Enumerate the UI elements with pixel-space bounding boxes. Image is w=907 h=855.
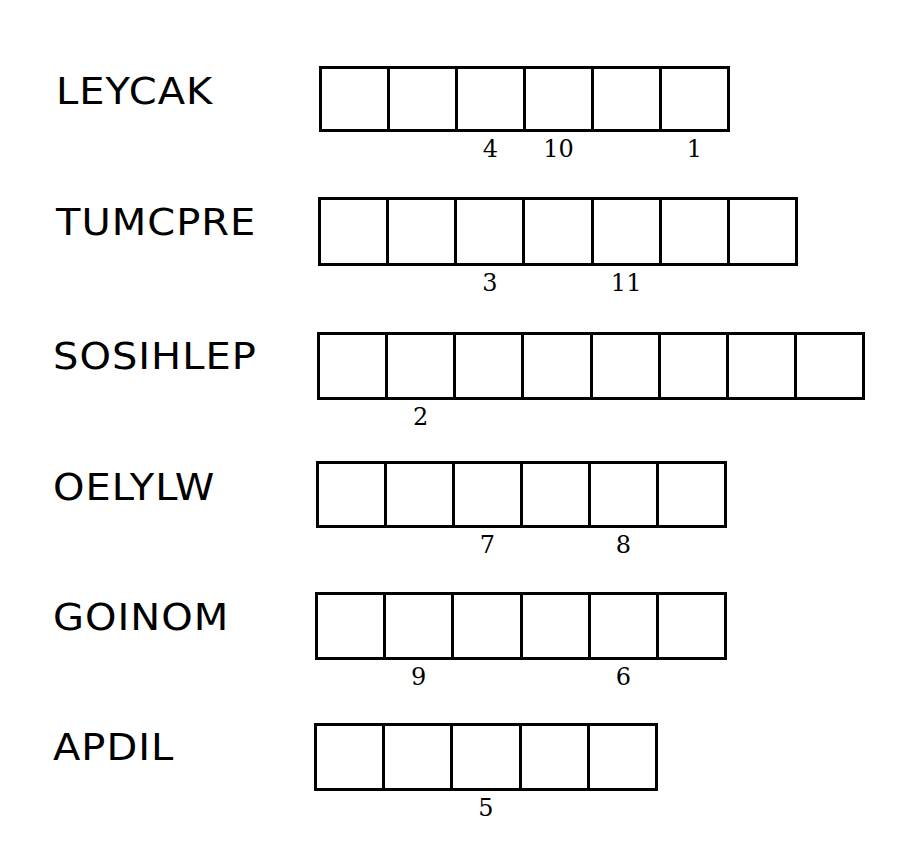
letter-cell[interactable]: 9 bbox=[386, 595, 454, 657]
letter-cell[interactable] bbox=[456, 335, 524, 397]
letter-cell[interactable]: 10 bbox=[526, 69, 594, 129]
letter-cell[interactable] bbox=[590, 726, 655, 788]
scrambled-word: OELYLW bbox=[53, 468, 215, 506]
letter-cell[interactable] bbox=[387, 464, 455, 525]
letter-cell[interactable] bbox=[320, 335, 388, 397]
letter-cell[interactable] bbox=[319, 464, 387, 525]
letter-cell[interactable] bbox=[659, 464, 724, 525]
letter-cell[interactable]: 1 bbox=[662, 69, 727, 129]
answer-boxes: 78 bbox=[316, 461, 727, 528]
letter-cell[interactable] bbox=[317, 726, 385, 788]
letter-cell[interactable]: 11 bbox=[594, 200, 662, 263]
letter-cell[interactable] bbox=[594, 69, 662, 129]
letter-cell[interactable]: 3 bbox=[457, 200, 525, 263]
cell-number: 8 bbox=[591, 533, 656, 557]
letter-cell[interactable] bbox=[730, 200, 795, 263]
cell-number: 9 bbox=[386, 665, 451, 689]
cell-number: 6 bbox=[591, 665, 656, 689]
cell-number: 5 bbox=[453, 796, 518, 820]
answer-boxes: 5 bbox=[314, 723, 658, 791]
letter-cell[interactable] bbox=[524, 335, 592, 397]
letter-cell[interactable] bbox=[322, 69, 390, 129]
letter-cell[interactable] bbox=[729, 335, 797, 397]
letter-cell[interactable] bbox=[389, 200, 457, 263]
letter-cell[interactable] bbox=[321, 200, 389, 263]
letter-cell[interactable]: 6 bbox=[591, 595, 659, 657]
letter-cell[interactable] bbox=[661, 335, 729, 397]
answer-boxes: 96 bbox=[315, 592, 727, 660]
cell-number: 1 bbox=[662, 137, 727, 161]
cell-number: 4 bbox=[458, 137, 523, 161]
answer-boxes: 4101 bbox=[319, 66, 730, 132]
letter-cell[interactable] bbox=[593, 335, 661, 397]
letter-cell[interactable] bbox=[318, 595, 386, 657]
answer-boxes: 311 bbox=[318, 197, 798, 266]
scrambled-word: TUMCPRE bbox=[56, 203, 256, 241]
cell-number: 7 bbox=[455, 533, 520, 557]
cell-number: 2 bbox=[388, 405, 453, 429]
cell-number: 10 bbox=[526, 137, 591, 161]
letter-cell[interactable] bbox=[385, 726, 453, 788]
letter-cell[interactable] bbox=[523, 464, 591, 525]
letter-cell[interactable] bbox=[390, 69, 458, 129]
letter-cell[interactable] bbox=[659, 595, 724, 657]
letter-cell[interactable]: 4 bbox=[458, 69, 526, 129]
scrambled-word: APDIL bbox=[53, 728, 174, 766]
answer-boxes: 2 bbox=[317, 332, 865, 400]
letter-cell[interactable]: 2 bbox=[388, 335, 456, 397]
cell-number: 11 bbox=[594, 271, 659, 295]
scrambled-word: SOSIHLEP bbox=[53, 337, 257, 375]
scrambled-word: LEYCAK bbox=[56, 72, 213, 110]
letter-cell[interactable] bbox=[522, 726, 590, 788]
letter-cell[interactable] bbox=[662, 200, 730, 263]
cell-number: 3 bbox=[457, 271, 522, 295]
scrambled-word: GOINOM bbox=[53, 598, 229, 636]
letter-cell[interactable] bbox=[523, 595, 591, 657]
letter-cell[interactable] bbox=[454, 595, 522, 657]
letter-cell[interactable]: 7 bbox=[455, 464, 523, 525]
letter-cell[interactable] bbox=[525, 200, 593, 263]
letter-cell[interactable]: 8 bbox=[591, 464, 659, 525]
letter-cell[interactable] bbox=[797, 335, 862, 397]
letter-cell[interactable]: 5 bbox=[453, 726, 521, 788]
